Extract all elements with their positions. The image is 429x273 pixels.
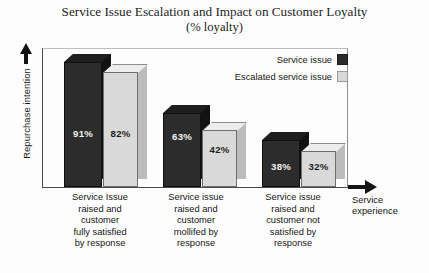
bar-group2-service-issue: 63% <box>163 113 201 187</box>
x-axis-arrow-icon <box>365 180 377 194</box>
bar-side-face <box>138 64 147 179</box>
chart-title: Service Issue Escalation and Impact on C… <box>0 4 429 35</box>
chart-legend: Service issue Escalated service issue <box>196 52 348 86</box>
category-label-2-line3: customer <box>144 215 248 227</box>
legend-swatch-escalated-service-issue <box>337 71 348 82</box>
category-label-1-line1: Service Issue <box>48 192 152 204</box>
bar-group1-escalated: 82% <box>103 72 138 187</box>
legend-label-service-issue: Service issue <box>277 55 332 65</box>
bar-group3-escalated: 32% <box>301 151 336 187</box>
chart-title-line1: Service Issue Escalation and Impact on C… <box>0 4 429 20</box>
bar-value-group1-escalated: 82% <box>103 128 138 139</box>
category-label-3-line1: Service issue <box>241 192 345 204</box>
x-axis-label: Service experience <box>352 194 428 216</box>
y-axis-label: Repurchase intention <box>21 48 32 180</box>
category-label-1: Service Issue raised and customer fully … <box>48 192 152 250</box>
x-axis-arrow-stem <box>348 185 366 189</box>
category-label-1-line5: by response <box>48 238 152 250</box>
category-label-2-line1: Service issue <box>144 192 248 204</box>
chart-subtitle: (% loyalty) <box>0 20 429 36</box>
bar-front-face <box>202 130 237 187</box>
bar-value-group2-service-issue: 63% <box>163 131 201 142</box>
category-label-2-line2: raised and <box>144 204 248 216</box>
category-label-3-line4: satisfied by <box>241 227 345 239</box>
legend-label-escalated-service-issue: Escalated service issue <box>235 72 332 82</box>
legend-swatch-service-issue <box>337 54 348 65</box>
bar-front-face <box>163 113 201 187</box>
category-label-3: Service issue raised and customer not sa… <box>241 192 345 250</box>
bar-value-group1-service-issue: 91% <box>64 128 102 139</box>
legend-item-service-issue: Service issue <box>196 52 348 67</box>
category-label-2-line5: response <box>144 238 248 250</box>
category-label-3-line3: customer not <box>241 215 345 227</box>
chart-page: Service Issue Escalation and Impact on C… <box>0 0 429 273</box>
bar-side-face <box>237 122 246 179</box>
category-label-2: Service issue raised and customer mollif… <box>144 192 248 250</box>
bar-value-group3-escalated: 32% <box>301 161 336 172</box>
x-axis-label-line1: Service <box>352 194 428 205</box>
bar-value-group2-escalated: 42% <box>202 144 237 155</box>
x-axis-label-line2: experience <box>352 205 428 216</box>
bar-group1-service-issue: 91% <box>64 62 102 187</box>
category-label-1-line4: fully satisfied <box>48 227 152 239</box>
bar-group2-escalated: 42% <box>202 130 237 187</box>
category-label-1-line2: raised and <box>48 204 152 216</box>
category-label-2-line4: mollifed by <box>144 227 248 239</box>
bar-group3-service-issue: 38% <box>262 140 300 187</box>
category-label-3-line2: raised and <box>241 204 345 216</box>
category-label-3-line5: response <box>241 238 345 250</box>
category-label-1-line3: customer <box>48 215 152 227</box>
legend-item-escalated-service-issue: Escalated service issue <box>196 69 348 84</box>
bar-value-group3-service-issue: 38% <box>262 161 300 172</box>
bar-front-face <box>64 62 102 187</box>
